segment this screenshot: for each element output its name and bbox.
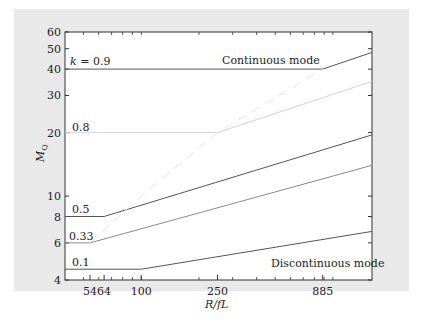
label-k05: 0.5	[72, 203, 90, 216]
x-tick-label: 64	[97, 285, 111, 298]
x-tick-label: 250	[207, 285, 228, 298]
label-k08: 0.8	[72, 121, 90, 134]
y-tick-label: 20	[47, 127, 61, 140]
y-tick-label: 4	[54, 274, 61, 287]
x-tick-label: 100	[131, 285, 152, 298]
continuous-mode-label: Continuous mode	[222, 54, 320, 67]
label-k09: k = 0.9	[70, 55, 110, 68]
label-k01: 0.1	[72, 256, 90, 269]
x-tick-label: 885	[312, 285, 333, 298]
label-k033: 0.33	[69, 230, 94, 243]
x-axis-label: R/fL	[204, 298, 228, 311]
y-tick-label: 6	[54, 237, 61, 250]
discontinuous-mode-label: Discontinuous mode	[271, 257, 384, 270]
y-tick-label: 10	[47, 190, 61, 203]
y-tick-label: 30	[47, 89, 61, 102]
y-tick-label: 60	[47, 26, 61, 39]
y-tick-label: 8	[54, 211, 61, 224]
line-chart: 468102030405060 5464100250885 k = 0.9 0.…	[0, 0, 424, 330]
y-axis-label: MQ	[34, 144, 49, 163]
y-tick-label: 40	[47, 63, 61, 76]
y-tick-label: 50	[47, 43, 61, 56]
x-tick-label: 54	[83, 285, 97, 298]
